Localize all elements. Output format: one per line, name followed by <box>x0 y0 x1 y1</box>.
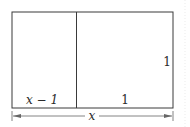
height-label: 1 <box>163 55 171 69</box>
right-width-label: 1 <box>121 93 129 107</box>
total-width-label: x <box>89 109 96 123</box>
golden-rectangle-diagram: x − 1 1 1 x <box>0 0 190 127</box>
arrowhead-right-icon <box>164 114 172 118</box>
left-width-label: x − 1 <box>26 93 58 107</box>
arrowhead-left-icon <box>13 114 21 118</box>
